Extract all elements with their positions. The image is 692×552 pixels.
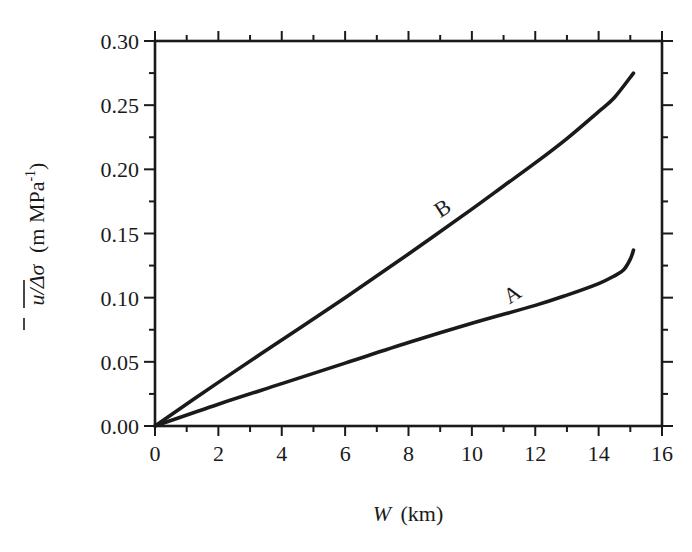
y-axis-title-variable: u/Δσ (24, 263, 49, 305)
y-tick-label: 0.15 (101, 222, 140, 247)
data-series (155, 73, 633, 426)
y-tick-label: 0.05 (101, 350, 140, 375)
plot-frame (155, 41, 662, 426)
x-tick-label: 8 (403, 441, 414, 466)
curve-labels: BA (429, 193, 525, 308)
y-axis-title: u/Δσ (m MPa-1) (23, 163, 49, 330)
x-tick-label: 16 (651, 441, 673, 466)
plot-border (155, 41, 662, 426)
curve-b (155, 73, 633, 426)
curve-a (155, 250, 633, 426)
x-tick-label: 10 (461, 441, 483, 466)
curve-label-b: B (429, 193, 455, 222)
x-tick-label: 0 (150, 441, 161, 466)
x-axis-title: W (km) (373, 501, 444, 526)
y-tick-label: 0.30 (101, 29, 140, 54)
y-tick-label: 0.25 (101, 93, 140, 118)
y-tick-label: 0.20 (101, 157, 140, 182)
curve-label-a: A (499, 279, 526, 309)
svg-text:u/Δσ (m MPa-1): u/Δσ (m MPa-1) (23, 163, 49, 306)
chart-figure: 0246810121416 0.000.050.100.150.200.250.… (0, 0, 692, 552)
x-tick-label: 2 (213, 441, 224, 466)
y-axis-ticks: 0.000.050.100.150.200.250.30 (101, 29, 674, 439)
x-tick-label: 12 (524, 441, 546, 466)
y-tick-label: 0.10 (101, 286, 140, 311)
y-tick-label: 0.00 (101, 414, 140, 439)
x-tick-label: 6 (340, 441, 351, 466)
x-tick-label: 4 (276, 441, 287, 466)
x-tick-label: 14 (588, 441, 610, 466)
